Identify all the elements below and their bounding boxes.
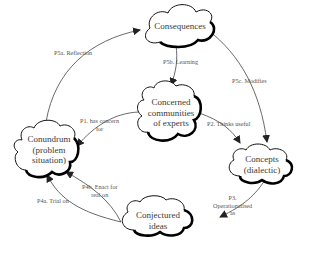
node-consequences-text: Consequences bbox=[154, 21, 206, 31]
node-conundrum-line2: (problem bbox=[18, 145, 80, 156]
edge-p5a bbox=[46, 30, 140, 122]
edge-label-p3-line1: P3. bbox=[213, 194, 252, 202]
edge-label-p1-line2: for bbox=[80, 125, 119, 133]
edge-label-p1-line1: P1. has concern bbox=[80, 117, 119, 125]
node-communities-line1: Concerned bbox=[139, 97, 203, 108]
edge-label-p2: P2. Thinks useful bbox=[207, 120, 250, 128]
node-communities-line3: of experts bbox=[139, 118, 203, 129]
edge-label-p3-line2: Operationalised bbox=[213, 202, 252, 210]
edge-label-p5c: P5c. Modifies bbox=[232, 77, 267, 85]
edge-p2 bbox=[199, 113, 240, 143]
edge-label-p3-line3: as bbox=[213, 209, 252, 217]
node-conundrum-line1: Conundrum bbox=[18, 134, 80, 145]
edge-label-p1: P1. has concern for bbox=[80, 117, 119, 132]
node-conjectured: Conjectured ideas bbox=[126, 210, 190, 231]
edge-label-p4a: P4a. Trial on bbox=[37, 197, 69, 205]
node-conundrum: Conundrum (problem situation) bbox=[18, 134, 80, 166]
edge-label-p4b: P4b. Enact for real on bbox=[82, 183, 118, 198]
node-conjectured-line1: Conjectured bbox=[126, 210, 190, 221]
edge-label-p5a: P5a. Reflection bbox=[54, 49, 92, 57]
node-consequences: Consequences bbox=[150, 21, 210, 32]
edge-label-p3: P3. Operationalised as bbox=[213, 194, 252, 217]
node-concepts-line1: Concepts bbox=[232, 154, 292, 165]
node-conjectured-line2: ideas bbox=[126, 221, 190, 232]
node-conundrum-line3: situation) bbox=[18, 155, 80, 166]
edge-label-p4b-line1: P4b. Enact for bbox=[82, 183, 118, 191]
node-communities-line2: communities bbox=[139, 108, 203, 119]
node-concepts: Concepts (dialectic) bbox=[232, 154, 292, 175]
node-communities: Concerned communities of experts bbox=[139, 97, 203, 129]
edge-label-p4b-line2: real on bbox=[82, 191, 118, 199]
edge-label-p5b: P5b. Learning bbox=[163, 58, 198, 66]
node-concepts-line2: (dialectic) bbox=[232, 165, 292, 176]
